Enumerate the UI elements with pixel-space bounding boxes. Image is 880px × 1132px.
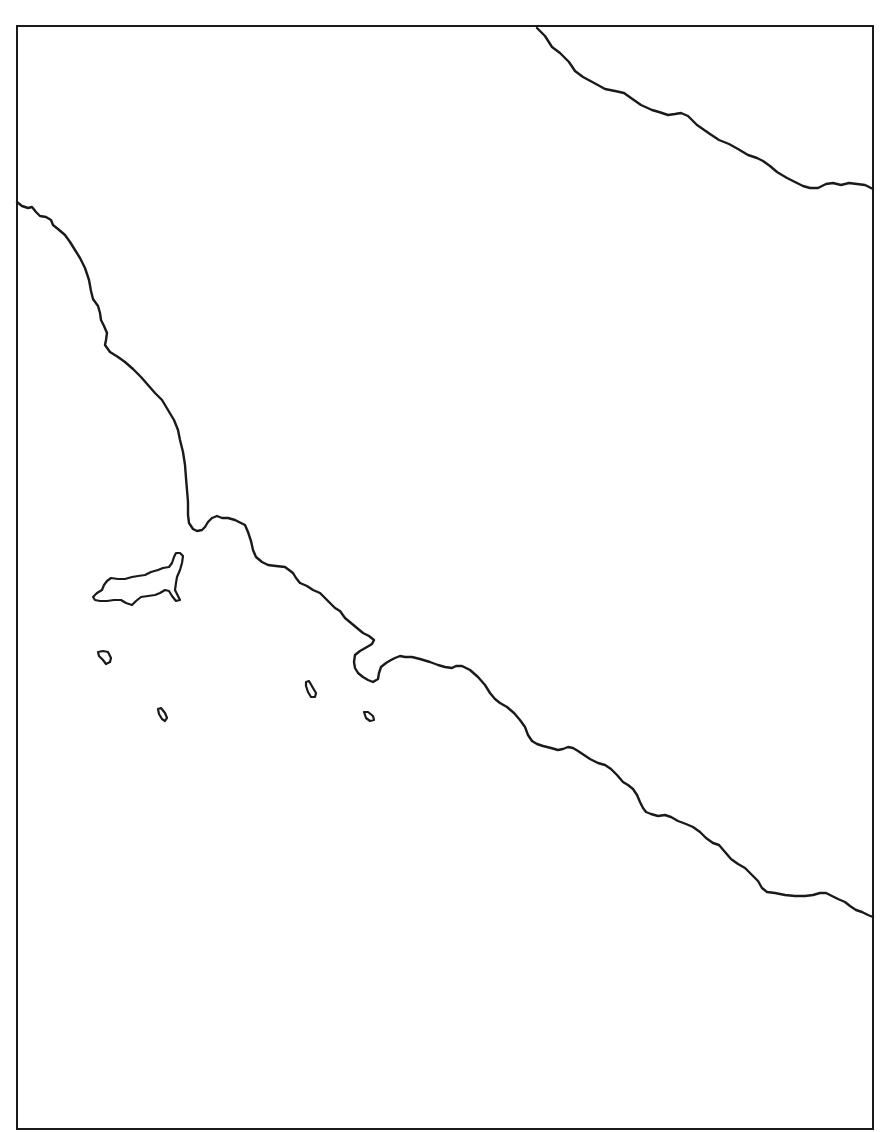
small-island-4	[364, 712, 374, 721]
small-island-3	[306, 681, 316, 697]
small-island-1	[98, 651, 111, 664]
main-coastline	[17, 202, 873, 917]
outline-map	[0, 0, 880, 1132]
large-island	[93, 553, 183, 605]
small-island-2	[158, 708, 167, 721]
northeast-coastline	[537, 28, 873, 189]
